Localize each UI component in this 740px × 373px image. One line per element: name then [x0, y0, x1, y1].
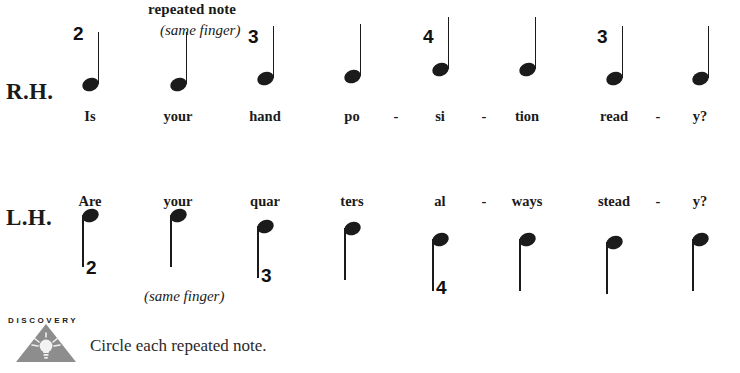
lyric-hyphen: - [394, 108, 399, 125]
lyric-syllable: read [600, 108, 628, 125]
note-stem [257, 226, 259, 278]
lyric-syllable: stead [598, 193, 630, 210]
note-stem [448, 17, 450, 69]
note-stem [519, 239, 521, 291]
note-stem [432, 239, 434, 291]
lightbulb-triangle-icon [14, 322, 78, 368]
repeated-note-label: repeated note [148, 1, 236, 18]
same-finger-label-top: (same finger) [160, 22, 240, 39]
lyric-syllable: ways [512, 193, 543, 210]
finger-number: 2 [73, 24, 84, 43]
note-stem [708, 26, 710, 78]
note-stem [692, 239, 694, 291]
lyric-syllable: your [164, 108, 193, 125]
lyric-syllable: po [344, 108, 359, 125]
note-stem [622, 26, 624, 78]
lyric-syllable: si [435, 108, 445, 125]
lyric-hyphen: - [656, 108, 661, 125]
note-stem [606, 242, 608, 294]
lyric-syllable: your [164, 193, 193, 210]
finger-number: 3 [597, 27, 608, 46]
lyric-syllable: ters [340, 193, 363, 210]
note-stem [344, 228, 346, 280]
lyric-syllable: tion [515, 108, 539, 125]
note-stem [186, 32, 188, 84]
discovery-badge: DISCOVERY Circle each repeated not [0, 312, 300, 372]
note-stem [98, 32, 100, 84]
lyric-hyphen: - [482, 108, 487, 125]
note-stem [535, 17, 537, 69]
hand-label-right: R.H. [6, 79, 53, 105]
lyric-syllable: Is [84, 108, 95, 125]
hand-label-left: L.H. [6, 205, 52, 231]
note-stem [273, 26, 275, 78]
finger-number: 4 [423, 27, 434, 46]
discovery-instruction: Circle each repeated note. [90, 336, 267, 356]
lyric-syllable: Are [78, 193, 101, 210]
same-finger-label-bottom: (same finger) [144, 288, 224, 305]
lyric-hyphen: - [482, 193, 487, 210]
note-stem [82, 215, 84, 267]
lyric-syllable: quar [250, 193, 280, 210]
note-stem [170, 215, 172, 267]
lyric-syllable: hand [249, 108, 280, 125]
worksheet-sheet: repeated note (same finger) R.H. 2Isyour… [0, 0, 740, 373]
finger-number: 3 [261, 266, 272, 285]
lyric-syllable: y? [693, 108, 708, 125]
lyric-hyphen: - [656, 193, 661, 210]
finger-number: 2 [86, 258, 97, 277]
lyric-syllable: y? [693, 193, 708, 210]
finger-number: 3 [248, 27, 259, 46]
finger-number: 4 [436, 278, 447, 297]
lyric-syllable: al [434, 193, 445, 210]
note-stem [360, 24, 362, 76]
